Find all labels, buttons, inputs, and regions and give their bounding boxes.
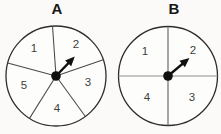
section-label: 2 — [190, 44, 196, 56]
spinner-b: 1243 — [119, 27, 218, 126]
section-label: 2 — [73, 38, 79, 50]
section-label: 3 — [85, 76, 91, 88]
spinner-diagram: A B 125341243 — [0, 0, 221, 134]
section-label: 1 — [142, 45, 148, 57]
section-label: 1 — [31, 42, 37, 54]
section-label: 4 — [144, 91, 151, 103]
section-label: 3 — [189, 91, 195, 103]
spinner-a: 12534 — [6, 26, 106, 126]
section-label: 4 — [54, 102, 61, 114]
section-label: 5 — [21, 79, 27, 91]
spinners-graphic: 125341243 — [0, 0, 221, 134]
center-dot — [163, 71, 173, 81]
center-dot — [51, 71, 61, 81]
